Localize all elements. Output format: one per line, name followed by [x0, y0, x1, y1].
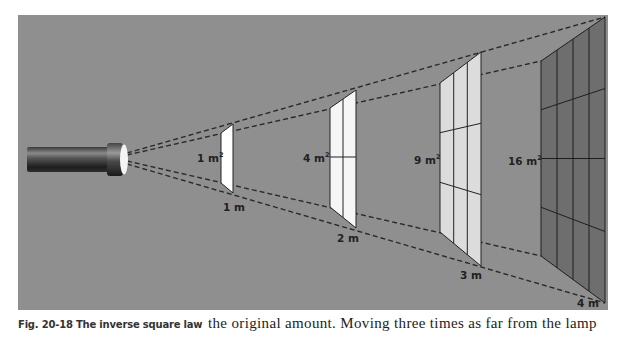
distance-label-4: 4 m	[577, 297, 599, 309]
lamp-lens	[120, 145, 128, 175]
body-paragraph: the original amount. Moving three times …	[208, 315, 597, 332]
distance-label-1: 1 m	[223, 201, 245, 213]
figure-caption: Fig. 20-18 The inverse square law	[18, 319, 202, 330]
distance-label-3: 3 m	[460, 269, 482, 281]
area-label-4: 16 m2	[508, 154, 542, 167]
panel-4m	[541, 17, 605, 303]
distance-label-2: 2 m	[337, 232, 359, 244]
inverse-square-law-diagram: 1 m2 4 m2 9 m2 16 m2 1 m 2 m 3 m 4 m	[0, 0, 625, 337]
panel-3m	[440, 52, 481, 266]
flashlight-icon	[27, 143, 128, 176]
panel-2m	[330, 90, 356, 228]
